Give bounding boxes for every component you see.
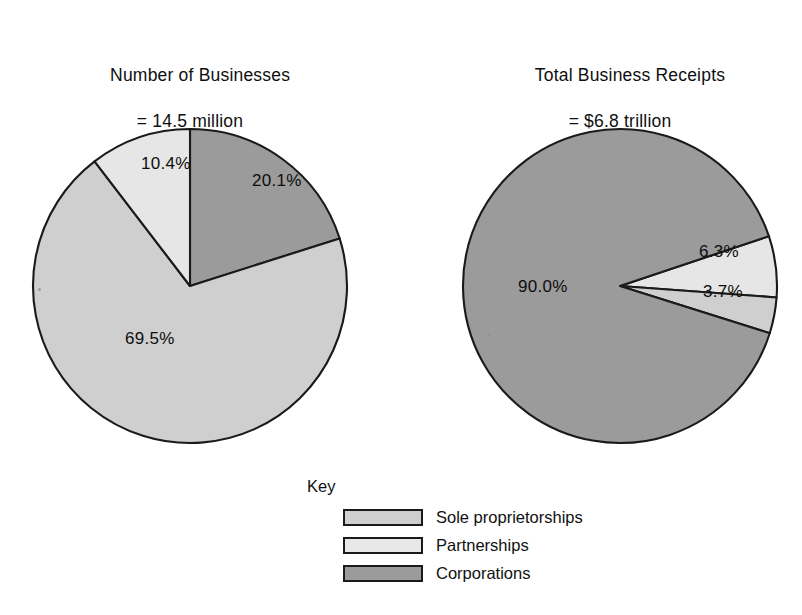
right-pie-value-label: 6.3% (699, 242, 739, 261)
legend-label-corporations: Corporations (436, 564, 530, 583)
legend: Key Sole proprietorships Partnerships Co… (305, 476, 635, 588)
scan-speck (487, 334, 490, 337)
left-pie-value-label: 69.5% (125, 329, 175, 348)
legend-swatch-corporations (343, 565, 423, 582)
legend-item-corporations: Corporations (305, 560, 635, 587)
pie-chart-figure: Number of Businesses = 14.5 million Tota… (0, 0, 802, 615)
left-pie-value-label: 20.1% (252, 171, 302, 190)
legend-label-partnerships: Partnerships (436, 536, 529, 555)
legend-title: Key (307, 476, 635, 496)
legend-item-sole-proprietorships: Sole proprietorships (305, 504, 635, 531)
left-pie-value-label: 10.4% (141, 154, 191, 173)
legend-item-partnerships: Partnerships (305, 532, 635, 559)
legend-swatch-partnerships (343, 537, 423, 554)
right-pie-value-label: 3.7% (703, 282, 743, 301)
scan-speck (38, 288, 41, 291)
legend-label-sole-proprietorships: Sole proprietorships (436, 508, 583, 527)
right-pie-value-label: 90.0% (518, 277, 568, 296)
legend-swatch-sole-proprietorships (343, 509, 423, 526)
